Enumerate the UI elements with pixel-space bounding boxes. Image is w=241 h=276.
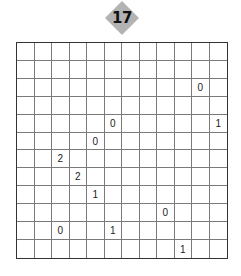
grid-cell[interactable] (210, 204, 228, 222)
grid-cell[interactable] (35, 222, 53, 240)
grid-cell[interactable] (105, 150, 123, 168)
grid-cell[interactable] (70, 150, 88, 168)
grid-cell[interactable] (70, 43, 88, 61)
grid-cell[interactable] (35, 115, 53, 133)
grid-cell[interactable] (122, 204, 140, 222)
grid-cell[interactable] (70, 97, 88, 115)
grid-cell[interactable] (157, 168, 175, 186)
grid-cell[interactable] (122, 115, 140, 133)
grid-cell[interactable] (192, 61, 210, 79)
grid-cell[interactable] (70, 204, 88, 222)
grid-cell[interactable] (210, 240, 228, 258)
grid-cell[interactable] (87, 222, 105, 240)
grid-cell[interactable] (175, 168, 193, 186)
grid-cell[interactable] (157, 133, 175, 151)
grid-cell[interactable] (17, 43, 35, 61)
grid-cell[interactable] (87, 150, 105, 168)
grid-cell[interactable] (35, 79, 53, 97)
grid-cell[interactable] (17, 133, 35, 151)
grid-cell[interactable] (192, 97, 210, 115)
grid-cell[interactable] (175, 186, 193, 204)
grid-cell[interactable] (17, 97, 35, 115)
grid-cell[interactable] (122, 150, 140, 168)
grid-cell[interactable] (17, 150, 35, 168)
grid-cell[interactable] (175, 61, 193, 79)
grid-cell[interactable] (122, 97, 140, 115)
grid-cell[interactable]: 1 (105, 222, 123, 240)
grid-cell[interactable] (87, 79, 105, 97)
grid-cell[interactable] (35, 168, 53, 186)
grid-cell[interactable] (157, 186, 175, 204)
grid-cell[interactable] (87, 204, 105, 222)
grid-cell[interactable] (87, 97, 105, 115)
grid-cell[interactable] (52, 133, 70, 151)
grid-cell[interactable] (157, 79, 175, 97)
grid-cell[interactable] (210, 43, 228, 61)
grid-cell[interactable] (105, 97, 123, 115)
grid-cell[interactable] (52, 168, 70, 186)
grid-cell[interactable] (157, 43, 175, 61)
grid-cell[interactable] (175, 43, 193, 61)
grid-cell[interactable] (105, 79, 123, 97)
grid-cell[interactable] (35, 61, 53, 79)
grid-cell[interactable] (52, 115, 70, 133)
grid-cell[interactable] (175, 97, 193, 115)
grid-cell[interactable] (35, 43, 53, 61)
grid-cell[interactable] (105, 240, 123, 258)
grid-cell[interactable] (157, 115, 175, 133)
grid-cell[interactable]: 0 (52, 222, 70, 240)
grid-cell[interactable] (105, 61, 123, 79)
grid-cell[interactable] (210, 150, 228, 168)
grid-cell[interactable] (87, 115, 105, 133)
grid-cell[interactable] (17, 168, 35, 186)
grid-cell[interactable] (140, 168, 158, 186)
grid-cell[interactable] (140, 222, 158, 240)
grid-cell[interactable] (105, 43, 123, 61)
grid-cell[interactable] (140, 204, 158, 222)
grid-cell[interactable] (175, 133, 193, 151)
grid-cell[interactable] (17, 115, 35, 133)
grid-cell[interactable] (87, 168, 105, 186)
grid-cell[interactable] (17, 61, 35, 79)
grid-cell[interactable] (210, 133, 228, 151)
grid-cell[interactable]: 0 (105, 115, 123, 133)
grid-cell[interactable] (70, 115, 88, 133)
grid-cell[interactable] (35, 150, 53, 168)
grid-cell[interactable] (105, 168, 123, 186)
grid-cell[interactable] (192, 43, 210, 61)
grid-cell[interactable]: 0 (87, 133, 105, 151)
grid-cell[interactable] (192, 115, 210, 133)
grid-cell[interactable] (140, 79, 158, 97)
grid-cell[interactable] (192, 150, 210, 168)
grid-cell[interactable] (52, 79, 70, 97)
grid-cell[interactable] (210, 186, 228, 204)
grid-cell[interactable] (210, 168, 228, 186)
grid-cell[interactable] (105, 186, 123, 204)
grid-cell[interactable] (35, 97, 53, 115)
grid-cell[interactable] (192, 186, 210, 204)
grid-cell[interactable] (70, 79, 88, 97)
grid-cell[interactable] (157, 150, 175, 168)
grid-cell[interactable] (140, 97, 158, 115)
grid-cell[interactable] (157, 97, 175, 115)
grid-cell[interactable] (210, 61, 228, 79)
grid-cell[interactable]: 2 (70, 168, 88, 186)
grid-cell[interactable] (140, 61, 158, 79)
grid-cell[interactable] (70, 61, 88, 79)
grid-cell[interactable] (70, 186, 88, 204)
grid-cell[interactable] (157, 61, 175, 79)
grid-cell[interactable] (175, 150, 193, 168)
grid-cell[interactable] (70, 240, 88, 258)
grid-cell[interactable] (175, 79, 193, 97)
grid-cell[interactable] (122, 240, 140, 258)
grid-cell[interactable] (157, 222, 175, 240)
grid-cell[interactable] (122, 222, 140, 240)
grid-cell[interactable] (17, 79, 35, 97)
grid-cell[interactable] (105, 133, 123, 151)
grid-cell[interactable] (52, 97, 70, 115)
grid-cell[interactable] (210, 97, 228, 115)
grid-cell[interactable] (35, 186, 53, 204)
grid-cell[interactable]: 0 (192, 79, 210, 97)
grid-cell[interactable] (140, 43, 158, 61)
grid-cell[interactable] (192, 240, 210, 258)
